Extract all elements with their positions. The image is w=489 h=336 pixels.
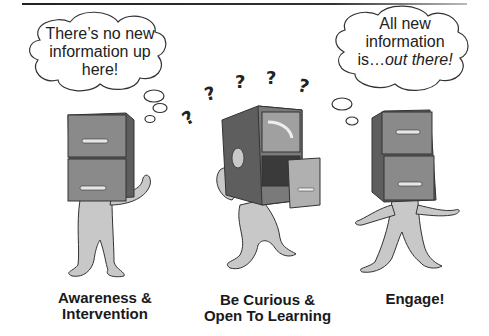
svg-text:?: ? (178, 106, 198, 129)
thought-right-line3: is…out there! (345, 51, 465, 69)
svg-text:?: ? (266, 67, 276, 88)
thought-right-line3-italic: out there! (385, 51, 453, 68)
svg-text:?: ? (202, 82, 218, 105)
thought-right-line3-plain: is… (357, 51, 385, 68)
thought-text-left: There’s no new information up here! (40, 25, 160, 79)
character-left (68, 113, 150, 277)
caption-left: Awareness & Intervention (45, 290, 165, 322)
caption-middle-line2: Open To Learning (195, 308, 340, 324)
svg-text:?: ? (296, 74, 312, 97)
thought-left-line3: here! (40, 61, 160, 79)
thought-right-line2: information (345, 33, 465, 51)
thought-right-line1: All new (345, 15, 465, 33)
caption-middle-line1: Be Curious & (195, 292, 340, 308)
thought-left-line2: information up (40, 43, 160, 61)
thought-text-right: All new information is…out there! (345, 15, 465, 69)
character-middle (217, 106, 320, 269)
svg-text:?: ? (235, 71, 245, 92)
thought-left-line1: There’s no new (40, 25, 160, 43)
character-right (356, 110, 460, 272)
caption-left-line1: Awareness & (45, 290, 165, 306)
caption-right-line1: Engage! (365, 291, 465, 307)
caption-left-line2: Intervention (45, 306, 165, 322)
caption-middle: Be Curious & Open To Learning (195, 292, 340, 324)
caption-right: Engage! (365, 291, 465, 307)
